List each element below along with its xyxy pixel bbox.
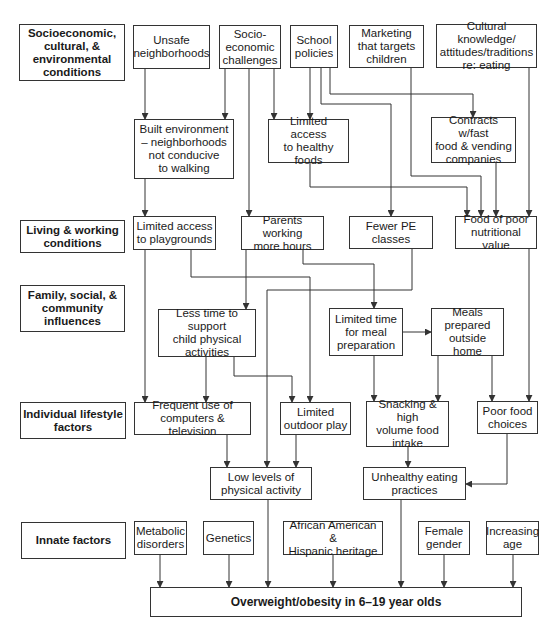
node-built-environment: Built environment – neighborhoods not co… — [134, 119, 234, 179]
arrow-lesstime-to-outdoor — [234, 357, 292, 402]
node-female-gender: Female gender — [418, 521, 470, 555]
category-socioeconomic: Socioeconomic, cultural, & environmental… — [19, 24, 125, 81]
node-unhealthy-eating-practices: Unhealthy eating practices — [363, 467, 466, 500]
node-label: Limited time for meal preparation — [335, 313, 397, 352]
node-parents-working-more-hours: Parents working more hours — [241, 216, 324, 250]
node-metabolic-disorders: Metabolic disorders — [134, 521, 187, 555]
node-label: Low levels of physical activity — [221, 471, 301, 497]
arrow-choices-to-unhealthy — [466, 434, 507, 484]
node-label: Frequent use of computers & television — [137, 399, 248, 438]
node-poor-food-choices: Poor food choices — [477, 401, 538, 434]
node-limited-outdoor-play: Limited outdoor play — [280, 402, 351, 435]
node-frequent-computers-television: Frequent use of computers & television — [134, 402, 251, 435]
node-low-physical-activity: Low levels of physical activity — [210, 467, 312, 500]
node-marketing-targets-children: Marketing that targets children — [349, 25, 424, 68]
node-label: Contracts w/fast food & vending companie… — [434, 114, 513, 166]
node-label: Parents working more hours — [244, 214, 321, 253]
node-label: Limited outdoor play — [284, 406, 347, 432]
node-label: African American & Hispanic heritage — [286, 519, 380, 558]
arrow-school-to-contracts — [330, 68, 473, 117]
node-label: School policies — [295, 34, 333, 60]
arrow-parents-to-mealprep — [303, 250, 374, 308]
category-label: Living & working conditions — [26, 224, 119, 250]
node-label: Built environment – neighborhoods not co… — [140, 123, 229, 175]
category-family-social: Family, social, & community influences — [20, 285, 125, 332]
node-limited-access-healthy-foods: Limited access to healthy foods — [268, 119, 349, 163]
category-living-working: Living & working conditions — [20, 220, 125, 253]
node-label: Genetics — [206, 532, 251, 545]
node-label: Unsafe neighborhoods — [133, 34, 209, 60]
category-individual-lifestyle: Individual lifestyle factors — [20, 402, 126, 439]
node-label: Marketing that targets children — [358, 27, 416, 66]
node-meals-prepared-outside-home: Meals prepared outside home — [431, 308, 504, 356]
node-label: Limited access to playgrounds — [136, 220, 212, 246]
node-label: Fewer PE classes — [366, 220, 417, 246]
category-label: Innate factors — [36, 534, 111, 547]
node-increasing-age: Increasing age — [486, 521, 539, 555]
node-label: Overweight/obesity in 6–19 year olds — [231, 596, 442, 609]
node-label: Limited access to healthy foods — [271, 115, 346, 167]
category-label: Individual lifestyle factors — [23, 408, 123, 434]
node-label: Increasing age — [486, 525, 539, 551]
node-heritage: African American & Hispanic heritage — [283, 521, 383, 555]
node-label: Socio- economic challenges — [223, 28, 278, 67]
node-food-poor-nutritional-value: Food of poor nutritional value — [455, 216, 537, 249]
node-cultural-knowledge: Cultural knowledge/ attitudes/traditions… — [436, 24, 537, 68]
node-label: Female gender — [425, 525, 463, 551]
category-innate: Innate factors — [21, 522, 126, 559]
node-label: Unhealthy eating practices — [371, 471, 457, 497]
node-snacking-high-volume: Snacking & high volume food intake — [366, 401, 449, 447]
causal-diagram: Socioeconomic, cultural, & environmental… — [0, 0, 554, 626]
node-unsafe-neighborhoods: Unsafe neighborhoods — [133, 25, 210, 69]
node-label: Less time to support child physical acti… — [161, 307, 253, 359]
node-genetics: Genetics — [203, 521, 254, 555]
node-label: Meals prepared outside home — [434, 306, 501, 358]
node-limited-time-meal-preparation: Limited time for meal preparation — [329, 308, 403, 356]
arrow-healthyfoods-to-poorfood — [310, 163, 467, 216]
node-label: Metabolic disorders — [136, 525, 185, 551]
node-label: Poor food choices — [483, 405, 533, 431]
node-school-policies: School policies — [290, 25, 338, 68]
category-label: Socioeconomic, cultural, & environmental… — [28, 27, 116, 79]
node-fewer-pe-classes: Fewer PE classes — [349, 216, 433, 249]
node-socioeconomic-challenges: Socio- economic challenges — [219, 25, 281, 69]
node-contracts-fast-food: Contracts w/fast food & vending companie… — [431, 117, 516, 163]
node-label: Food of poor nutritional value — [458, 213, 534, 252]
node-label: Cultural knowledge/ attitudes/traditions… — [439, 20, 534, 72]
node-label: Snacking & high volume food intake — [369, 398, 446, 450]
node-limited-access-playgrounds: Limited access to playgrounds — [133, 216, 216, 250]
node-overweight-obesity-outcome: Overweight/obesity in 6–19 year olds — [150, 587, 522, 617]
category-label: Family, social, & community influences — [28, 289, 117, 328]
node-less-time-support-activities: Less time to support child physical acti… — [158, 309, 256, 357]
